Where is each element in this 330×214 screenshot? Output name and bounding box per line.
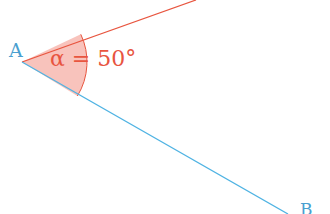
- angle-diagram: A α = 50° B: [0, 0, 330, 214]
- angle-value: 50°: [97, 46, 136, 71]
- vertex-label-a: A: [9, 39, 23, 61]
- angle-symbol: α: [50, 46, 65, 71]
- angle-equals: =: [72, 46, 90, 71]
- ray-lower: [22, 62, 288, 214]
- angle-label: α = 50°: [50, 46, 136, 71]
- angle-figure: [0, 0, 330, 214]
- endpoint-label-b: B: [300, 199, 313, 214]
